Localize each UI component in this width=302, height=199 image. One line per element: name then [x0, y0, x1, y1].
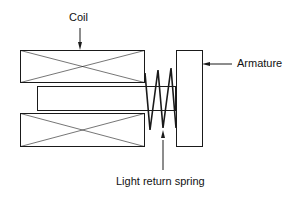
coil-label: Coil — [69, 11, 88, 23]
armature — [177, 51, 203, 147]
coil-arrowhead-icon — [78, 42, 82, 50]
return-spring — [145, 68, 176, 130]
spring-label: Light return spring — [116, 175, 205, 187]
solenoid-diagram — [0, 0, 302, 199]
coil-bottom-winding — [21, 114, 145, 147]
spring-arrowhead-icon — [161, 130, 165, 138]
armature-arrowhead-icon — [202, 62, 210, 66]
coil-top-winding — [21, 51, 145, 83]
armature-label: Armature — [237, 57, 282, 69]
